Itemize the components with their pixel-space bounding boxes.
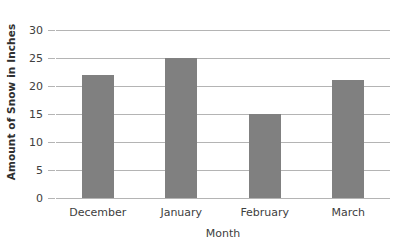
gridline [56,198,390,199]
y-axis-tick [48,170,55,171]
y-axis-tick-label: 10 [29,136,43,149]
y-axis-title: Amount of Snow in Inches [2,4,20,200]
bar [249,114,281,198]
plot-area: 051015202530DecemberJanuaryFebruaryMarch [56,30,390,198]
gridline [56,58,390,59]
x-axis-tick-label: December [69,206,126,219]
bar [82,75,114,198]
y-axis-tick-label: 15 [29,108,43,121]
y-axis-tick-label: 30 [29,24,43,37]
y-axis-tick-label: 5 [36,164,43,177]
y-axis-tick [48,30,55,31]
bar-chart-figure: Amount of Snow in Inches 051015202530Dec… [0,0,400,248]
y-axis-tick [48,114,55,115]
bar [332,80,364,198]
y-axis-tick [48,58,55,59]
x-axis-title: Month [56,227,390,240]
y-axis-tick-label: 0 [36,192,43,205]
x-axis-tick-label: January [160,206,202,219]
x-axis-tick-label: March [331,206,365,219]
y-axis-tick-label: 25 [29,52,43,65]
y-axis-tick [48,198,55,199]
y-axis-tick [48,86,55,87]
x-axis-tick-label: February [240,206,289,219]
y-axis-tick [48,142,55,143]
bar [165,58,197,198]
y-axis-tick-label: 20 [29,80,43,93]
gridline [56,30,390,31]
